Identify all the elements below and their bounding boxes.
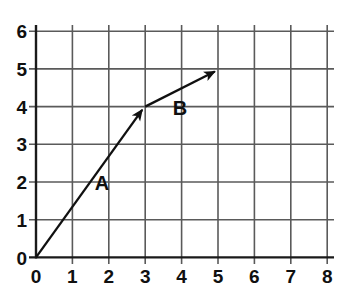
y-tick-6: 6 xyxy=(16,21,27,42)
y-tick-3: 3 xyxy=(16,134,27,155)
chart-background xyxy=(0,0,348,300)
x-tick-1: 1 xyxy=(67,266,78,287)
y-tick-4: 4 xyxy=(16,97,27,118)
y-tick-1: 1 xyxy=(16,210,27,231)
x-tick-8: 8 xyxy=(322,266,333,287)
vector-plot-svg: A B 0 1 2 3 4 5 6 7 8 0 1 2 3 4 5 6 xyxy=(0,0,348,300)
y-tick-2: 2 xyxy=(16,172,27,193)
x-tick-7: 7 xyxy=(286,266,297,287)
y-tick-0: 0 xyxy=(16,248,27,269)
vector-a-label: A xyxy=(95,172,109,194)
y-tick-5: 5 xyxy=(16,59,27,80)
vector-diagram-chart: A B 0 1 2 3 4 5 6 7 8 0 1 2 3 4 5 6 xyxy=(0,0,348,300)
x-tick-4: 4 xyxy=(176,266,187,287)
x-tick-6: 6 xyxy=(249,266,260,287)
x-tick-3: 3 xyxy=(140,266,151,287)
x-tick-0: 0 xyxy=(31,266,42,287)
x-axis-tick-labels: 0 1 2 3 4 5 6 7 8 xyxy=(31,266,333,287)
vector-b-label: B xyxy=(173,97,187,119)
x-tick-2: 2 xyxy=(104,266,115,287)
x-tick-5: 5 xyxy=(213,266,224,287)
